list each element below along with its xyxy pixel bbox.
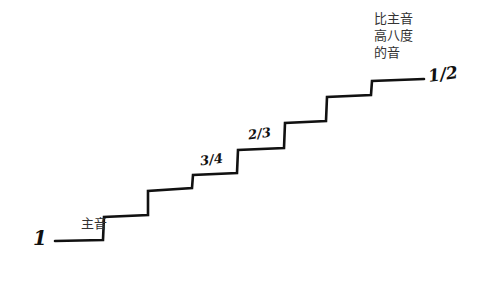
start-number-label: 1 — [33, 226, 47, 250]
octave-label: 比主音 高八度 的音 — [374, 10, 413, 61]
octave-label-line2: 高八度 — [374, 27, 413, 44]
ratio-half-label: 1/2 — [427, 62, 459, 86]
octave-label-line1: 比主音 — [374, 10, 413, 27]
ratio-two-thirds-label: 2/3 — [247, 124, 272, 142]
tonic-label: 主音 — [81, 213, 107, 232]
ratio-three-quarters-label: 3/4 — [199, 150, 224, 168]
octave-label-line3: 的音 — [374, 44, 413, 61]
staircase-line — [55, 79, 424, 241]
